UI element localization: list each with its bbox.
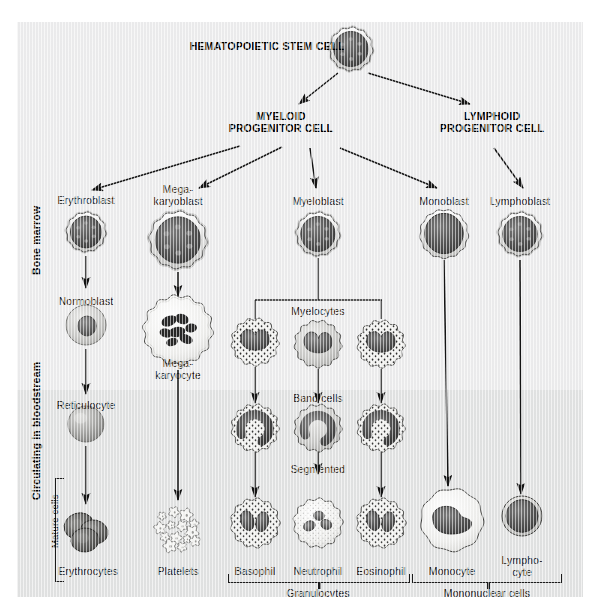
- side-label-mature-cells: Mature cells: [49, 494, 60, 548]
- basophil-cell: [230, 498, 280, 548]
- myelocyte-eosino: [357, 320, 405, 368]
- label-eosinophil: Eosinophil: [356, 566, 405, 578]
- platelets-cells: [154, 507, 201, 553]
- label-monocyte: Monocyte: [429, 566, 475, 578]
- lymphocyte-cell: [502, 496, 542, 536]
- label-myelocytes: Myelocytes: [291, 306, 345, 318]
- side-label-bone-marrow: Bone marrow: [30, 206, 42, 275]
- header-myeloid: MYELOID PROGENITOR CELL: [229, 110, 333, 134]
- label-erythroblast: Erythroblast: [57, 195, 114, 207]
- megakaryoblast-cell: [148, 210, 209, 271]
- lymphoid-to-lymphoblast: [494, 148, 523, 188]
- monoblast-to-monocyte: [444, 260, 448, 486]
- band-neutro: [294, 404, 342, 452]
- eosinophil-cell: [356, 498, 406, 548]
- lymphoblast-cell: [497, 211, 543, 257]
- header-stem: HEMATOPOIETIC STEM CELL: [190, 40, 345, 52]
- label-platelets: Platelets: [157, 566, 198, 578]
- monocyte-cell: [421, 489, 484, 552]
- myeloid-to-myeloblast: [310, 148, 316, 188]
- stem-to-myeloid: [299, 73, 338, 104]
- band-baso: [231, 404, 279, 452]
- label-megakaryocyte: Mega- karyocyte: [155, 358, 201, 381]
- label-myeloblast: Myeloblast: [292, 196, 343, 208]
- myeloid-to-megakaryo: [199, 147, 282, 188]
- label-reticulocyte: Reticulocyte: [57, 400, 115, 412]
- label-normoblast: Normoblast: [59, 296, 114, 308]
- label-megakaryoblast: Mega- karyoblast: [154, 184, 203, 207]
- label-basophil: Basophil: [234, 566, 275, 578]
- erythroblast-cell: [65, 211, 107, 253]
- myelocyte-drop-r: [380, 300, 381, 319]
- myelocyte-neutro: [294, 320, 342, 368]
- myelocyte-bar: [255, 299, 382, 300]
- hematopoiesis-panel: HEMATOPOIETIC STEM CELLMYELOID PROGENITO…: [17, 22, 583, 597]
- label-lymphocyte: Lympho- cyte: [501, 555, 542, 578]
- myeloblast-cell: [295, 211, 341, 257]
- label-erythrocytes: Erythrocytes: [58, 566, 118, 578]
- group-label-granulocytes: Granulocytes: [286, 588, 349, 597]
- label-lymphoblast: Lymphoblast: [490, 196, 550, 208]
- monoblast-cell: [419, 210, 468, 259]
- label-segmented: Segmented: [291, 464, 346, 476]
- side-label-bloodstream: Circulating in bloodstream: [30, 362, 42, 500]
- myeloid-to-monoblast: [340, 148, 437, 188]
- megakaryocyte-cell: [143, 295, 214, 365]
- normoblast-cell: [66, 305, 106, 345]
- myelocyte-drop-l: [254, 300, 255, 319]
- lymphoblast-to-lymphocyte: [520, 260, 521, 494]
- label-monoblast: Monoblast: [419, 196, 468, 208]
- myelocyte-baso: [231, 318, 279, 366]
- stem-to-lymphoid: [368, 73, 470, 104]
- diagram-page: HEMATOPOIETIC STEM CELLMYELOID PROGENITO…: [0, 0, 600, 607]
- label-bandcells: Band cells: [293, 393, 342, 405]
- label-neutrophil: Neutrophil: [294, 566, 343, 578]
- myeloblast-stem: [317, 258, 318, 300]
- band-eosino: [357, 404, 405, 452]
- neutrophil-cell: [293, 498, 343, 548]
- header-lymphoid: LYMPHOID PROGENITOR CELL: [440, 110, 544, 134]
- group-label-mononuclear-cells: Mononuclear cells: [444, 588, 530, 597]
- erythrocytes-cells: [61, 509, 110, 553]
